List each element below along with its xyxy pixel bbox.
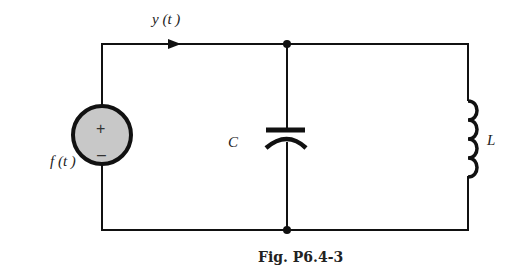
inductor-coil-icon [468,101,477,177]
source-plus-sign: + [96,120,105,137]
source-label: f (t ) [50,153,76,170]
junction-bottom-icon [283,226,291,234]
source-minus-sign: – [97,146,106,163]
circuit-diagram: y (t ) + – f (t ) C L Fig. P6.4-3 [0,0,516,273]
figure-caption: Fig. P6.4-3 [258,249,343,265]
voltage-source: + – [73,106,131,164]
inductor-label: L [486,132,495,148]
current-label: y (t ) [150,11,180,28]
junction-top-icon [283,40,291,48]
capacitor-label: C [228,134,239,150]
current-arrow-icon [168,39,181,49]
